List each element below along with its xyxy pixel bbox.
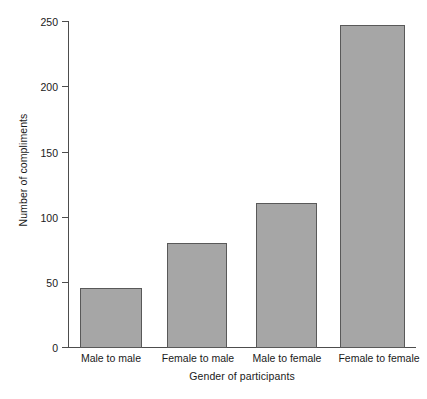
bar-2 [256, 203, 317, 348]
bar-1 [167, 243, 227, 348]
x-tick-label-1: Female to male [146, 351, 250, 365]
x-tick-label-3: Female to female [324, 351, 427, 365]
y-tick-label-3: 150 [40, 147, 58, 158]
x-tick-label-2: Male to female [241, 351, 333, 365]
bar-chart: Number of compliments 0 50 100 150 200 2… [0, 0, 427, 399]
plot-area: 0 50 100 150 200 250 [68, 21, 416, 348]
x-tick-labels: Male to male Female to male Male to fema… [68, 351, 416, 367]
y-axis-title: Number of compliments [17, 90, 29, 250]
y-tick-label-4: 200 [40, 81, 58, 92]
y-tick-label-5: 250 [40, 16, 58, 27]
bar-0 [80, 288, 142, 348]
y-tick-label-2: 100 [40, 212, 58, 223]
bar-series [68, 21, 416, 348]
x-tick-label-0: Male to male [66, 351, 156, 365]
y-tick-label-1: 50 [46, 277, 58, 288]
bar-3 [340, 25, 405, 348]
y-tick-label-0: 0 [52, 342, 58, 353]
x-axis-title: Gender of participants [68, 370, 416, 382]
